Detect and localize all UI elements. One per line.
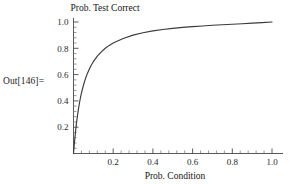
- y-tick-label: 1.0: [57, 17, 69, 27]
- y-axis-label: Prob. Test Correct: [70, 3, 139, 13]
- y-tick-label: 0.4: [57, 96, 69, 106]
- x-tick-label: 1.0: [266, 157, 278, 167]
- x-tick-label: 0.4: [147, 157, 159, 167]
- y-axis-tick-labels: 0.20.40.60.81.0: [57, 17, 69, 132]
- x-axis-label: Prob. Condition: [145, 171, 206, 181]
- data-curve: [74, 22, 273, 154]
- y-tick-label: 0.2: [57, 122, 68, 132]
- x-axis-ticks: [74, 149, 273, 154]
- y-tick-label: 0.6: [57, 70, 69, 80]
- x-tick-label: 0.2: [108, 157, 119, 167]
- notebook-output-cell: Out[146]= Prob. Test Correct Prob. Condi…: [0, 0, 289, 184]
- x-tick-label: 0.6: [187, 157, 199, 167]
- plot-graphics[interactable]: Prob. Test Correct Prob. Condition 0.20.…: [0, 0, 289, 184]
- y-tick-label: 0.8: [57, 44, 69, 54]
- plot-svg: Prob. Test Correct Prob. Condition 0.20.…: [0, 0, 289, 184]
- x-tick-label: 0.8: [227, 157, 239, 167]
- x-axis-tick-labels: 0.20.40.60.81.0: [108, 157, 279, 167]
